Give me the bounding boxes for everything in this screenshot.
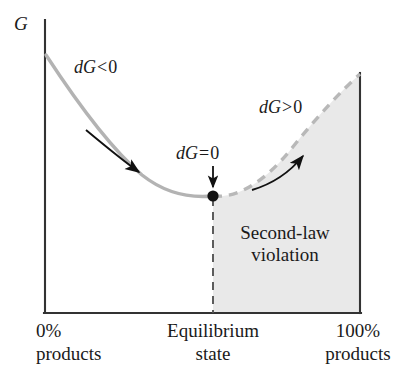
dg-positive-operator: > <box>281 97 293 117</box>
dg-zero-operator: = <box>198 143 210 163</box>
y-axis-label: G <box>14 13 28 34</box>
x-axis-label-left-line1: 0% <box>36 320 101 343</box>
dg-positive-g: G <box>268 97 281 117</box>
dg-negative-d: d <box>74 57 83 77</box>
annotation-dg-negative: dG<0 <box>74 57 117 77</box>
x-axis-label-middle-line1: Equilibrium <box>153 320 273 343</box>
x-axis-label-right-line1: 100% <box>306 320 410 343</box>
annotation-dg-positive: dG>0 <box>259 97 302 117</box>
x-axis-label-left-line2: products <box>36 343 101 366</box>
x-axis-label-left: 0% products <box>36 320 101 366</box>
dg-positive-value: 0 <box>293 97 302 117</box>
violation-label-line1: Second-law <box>222 222 348 244</box>
equilibrium-point-marker <box>207 190 218 201</box>
free-energy-curve-solid <box>46 55 213 196</box>
violation-label-line2: violation <box>222 244 348 266</box>
x-axis-label-right-line2: products <box>306 343 410 366</box>
dg-negative-operator: < <box>96 57 108 77</box>
gibbs-energy-diagram: G dG<0 dG=0 dG>0 Second-law violation 0%… <box>0 0 417 391</box>
dg-positive-d: d <box>259 97 268 117</box>
x-axis-label-right: 100% products <box>306 320 410 366</box>
dg-zero-d: d <box>176 143 185 163</box>
dg-zero-g: G <box>185 143 198 163</box>
dg-negative-g: G <box>83 57 96 77</box>
forward-reaction-arrow <box>86 130 139 172</box>
dg-negative-value: 0 <box>108 57 117 77</box>
x-axis-label-middle-line2: state <box>153 343 273 366</box>
dg-zero-value: 0 <box>210 143 219 163</box>
x-axis-label-middle: Equilibrium state <box>153 320 273 366</box>
annotation-dg-zero: dG=0 <box>176 143 219 163</box>
second-law-violation-label: Second-law violation <box>222 222 348 267</box>
